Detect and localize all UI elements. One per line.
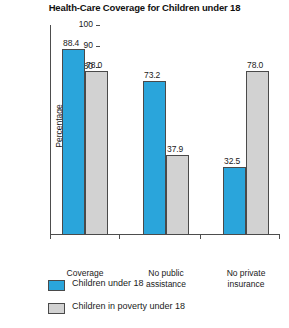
y-tick-mark <box>96 46 100 47</box>
y-tick-mark <box>96 25 100 26</box>
bar <box>62 49 85 235</box>
bar <box>85 71 108 235</box>
bar-value-label: 32.5 <box>224 156 240 166</box>
bar-value-label: 78.0 <box>247 60 263 70</box>
x-category-label: No privateinsurance <box>206 268 286 290</box>
x-category-line: insurance <box>206 279 286 290</box>
bar-value-label: 37.9 <box>167 144 183 154</box>
legend-swatch <box>48 303 65 314</box>
bar <box>143 81 166 235</box>
plot-area: Percentage 100908070605040302010 88.478.… <box>50 25 280 235</box>
bar <box>246 71 269 235</box>
legend-label: Children in poverty under 18 <box>72 301 185 311</box>
x-tick-mark-2 <box>200 235 201 239</box>
legend-swatch <box>48 280 65 291</box>
bar <box>166 155 189 235</box>
bar-value-label: 73.2 <box>144 70 160 80</box>
chart-title: Health-Care Coverage for Children under … <box>0 2 289 14</box>
x-tick-mark-3 <box>279 235 280 239</box>
y-tick-100: 100 <box>50 25 100 26</box>
bar-value-label: 88.4 <box>63 38 79 48</box>
x-tick-mark-0 <box>50 235 51 239</box>
legend-label: Children under 18 <box>72 278 144 288</box>
x-category-line: No private <box>206 268 286 279</box>
chart-figure: Health-Care Coverage for Children under … <box>0 0 289 328</box>
x-tick-mark-1 <box>119 235 120 239</box>
bar <box>223 167 246 235</box>
bar-value-label: 78.0 <box>86 60 102 70</box>
y-tick-label: 100 <box>79 19 93 29</box>
